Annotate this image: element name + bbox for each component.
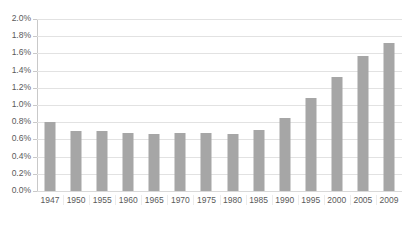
- bar: [123, 133, 134, 191]
- bar-slot: [63, 19, 89, 191]
- bar: [331, 77, 342, 191]
- x-axis-separator: [324, 195, 325, 205]
- bar-slot: [298, 19, 324, 191]
- bar: [357, 56, 368, 191]
- bar: [201, 133, 212, 191]
- y-axis-tick: [33, 174, 37, 175]
- bar: [71, 131, 82, 191]
- y-axis-tick-label: 0.2%: [1, 169, 31, 178]
- bar-slot: [37, 19, 63, 191]
- y-axis-tick: [33, 157, 37, 158]
- bar-slot: [324, 19, 350, 191]
- bar-slot: [167, 19, 193, 191]
- y-axis-tick-label: 1.8%: [1, 31, 31, 40]
- x-axis-labels: 1947195019551960196519701975198019851990…: [37, 195, 402, 211]
- x-axis-separator: [220, 195, 221, 205]
- bar-slot: [89, 19, 115, 191]
- x-axis-separator: [246, 195, 247, 205]
- x-axis-tick-label: 1975: [193, 195, 219, 205]
- x-axis-tick-label: 2005: [350, 195, 376, 205]
- bar-slot: [220, 19, 246, 191]
- x-axis-tick-label: 1965: [141, 195, 167, 205]
- bar-slot: [193, 19, 219, 191]
- y-axis-tick-label: 0.8%: [1, 117, 31, 126]
- bar: [279, 118, 290, 191]
- x-axis-separator: [141, 195, 142, 205]
- y-axis-tick: [33, 19, 37, 20]
- y-axis-tick-label: 1.4%: [1, 66, 31, 75]
- bar-slot: [350, 19, 376, 191]
- bar-slot: [376, 19, 402, 191]
- x-axis-separator: [167, 195, 168, 205]
- bar: [97, 131, 108, 191]
- y-axis-tick: [33, 139, 37, 140]
- bar: [45, 122, 56, 191]
- bar: [149, 134, 160, 191]
- plot-area: [37, 19, 402, 191]
- x-axis-tick-label: 1970: [167, 195, 193, 205]
- bar-slot: [272, 19, 298, 191]
- bar-chart: 0.0%0.2%0.4%0.6%0.8%1.0%1.2%1.4%1.6%1.8%…: [0, 0, 407, 225]
- y-axis-tick: [33, 122, 37, 123]
- bar: [253, 130, 264, 191]
- gridline: [37, 191, 402, 192]
- y-axis-tick-label: 2.0%: [1, 14, 31, 23]
- bar: [383, 43, 394, 191]
- y-axis-tick: [33, 105, 37, 106]
- y-axis-tick-label: 0.4%: [1, 152, 31, 161]
- y-axis-tick-label: 1.2%: [1, 83, 31, 92]
- x-axis-separator: [350, 195, 351, 205]
- bar: [175, 133, 186, 191]
- x-axis-tick-label: 1960: [115, 195, 141, 205]
- y-axis-tick: [33, 191, 37, 192]
- x-axis-tick-label: 1995: [298, 195, 324, 205]
- x-axis-tick-label: 1947: [37, 195, 63, 205]
- x-axis-tick-label: 2009: [376, 195, 402, 205]
- x-axis-tick-label: 1950: [63, 195, 89, 205]
- bar-slot: [246, 19, 272, 191]
- y-axis-tick: [33, 88, 37, 89]
- y-axis-tick: [33, 36, 37, 37]
- x-axis-tick-label: 1980: [220, 195, 246, 205]
- x-axis-separator: [193, 195, 194, 205]
- x-axis-tick-label: 2000: [324, 195, 350, 205]
- y-axis-tick-label: 1.6%: [1, 48, 31, 57]
- bar-slot: [141, 19, 167, 191]
- x-axis-tick-label: 1990: [272, 195, 298, 205]
- x-axis-separator: [376, 195, 377, 205]
- bar-slot: [115, 19, 141, 191]
- y-axis-tick-label: 0.0%: [1, 186, 31, 195]
- bar: [227, 134, 238, 191]
- y-axis-tick-label: 1.0%: [1, 100, 31, 109]
- x-axis-separator: [63, 195, 64, 205]
- x-axis-separator: [115, 195, 116, 205]
- x-axis-separator: [272, 195, 273, 205]
- y-axis-tick: [33, 53, 37, 54]
- y-axis-tick-label: 0.6%: [1, 134, 31, 143]
- y-axis-tick: [33, 71, 37, 72]
- x-axis-separator: [89, 195, 90, 205]
- x-axis-tick-label: 1955: [89, 195, 115, 205]
- y-axis-labels: 0.0%0.2%0.4%0.6%0.8%1.0%1.2%1.4%1.6%1.8%…: [0, 0, 31, 225]
- x-axis-separator: [298, 195, 299, 205]
- x-axis-tick-label: 1985: [246, 195, 272, 205]
- bar: [305, 98, 316, 191]
